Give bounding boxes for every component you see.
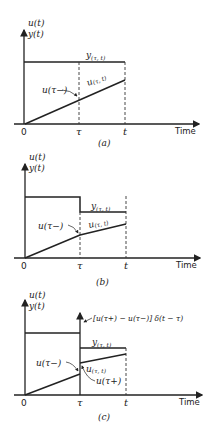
panel-caption: (a) [98,138,111,148]
u-tau-minus-label: u(τ−) [36,358,62,368]
y-axis-label-y: y(t) [27,29,44,39]
panel-caption: (c) [98,412,111,422]
u-segment-label: u(τ, t) [86,364,107,374]
u-tau-minus-pointer [68,225,78,233]
y-curve-label: y(τ, t) [90,201,111,212]
t-tick-label: t [124,260,129,271]
u-input-line-before [25,374,80,395]
panel-a: u(t) y(t) y(τ, t) u(τ−) u(τ, t) 0 τ t Ti… [14,18,199,148]
x-axis-label: Time [175,260,197,270]
y-axis-label-u: u(t) [28,18,45,28]
y-axis-label-y: y(t) [28,163,45,173]
origin-label: 0 [21,127,27,137]
tau-tick-label: τ [77,260,83,271]
y-axis-label-u: u(t) [29,290,46,300]
y-curve-label: y(τ, t) [85,50,106,61]
u-input-line [25,80,125,124]
origin-label: 0 [21,261,27,271]
tau-tick-label: τ [76,126,82,137]
figure: u(t) y(t) y(τ, t) u(τ−) u(τ, t) 0 τ t Ti… [0,0,209,429]
origin-label: 0 [21,398,27,408]
impulse-pointer [84,318,92,322]
y-axis-label-u: u(t) [29,152,46,162]
x-axis-label: Time [174,126,196,136]
panel-caption: (b) [96,277,109,287]
panel-b: u(t) y(t) y(τ, t) u(τ−) u(τ, t) 0 τ t Ti… [14,152,200,287]
t-tick-label: t [123,126,128,137]
u-tau-plus-label: u(τ+) [96,376,122,386]
t-tick-label: t [124,397,129,408]
x-axis-label: Time [178,397,200,407]
u-segment-label: u(τ, t) [85,71,108,88]
y-axis-label-y: y(t) [28,301,45,311]
y-curve-label: y(τ, t) [91,337,112,348]
panel-c: u(t) y(t) [u(τ+) − u(τ−)] δ(t − τ) y(τ, … [14,290,202,422]
u-tau-minus-label: u(τ−) [38,221,64,231]
u-segment-label: u(τ, t) [87,216,109,230]
impulse-label: [u(τ+) − u(τ−)] δ(t − τ) [93,314,183,323]
y-output-line [25,197,126,212]
u-tau-minus-pointer [66,362,78,371]
u-input-line-after [80,354,126,363]
tau-tick-label: τ [77,397,83,408]
